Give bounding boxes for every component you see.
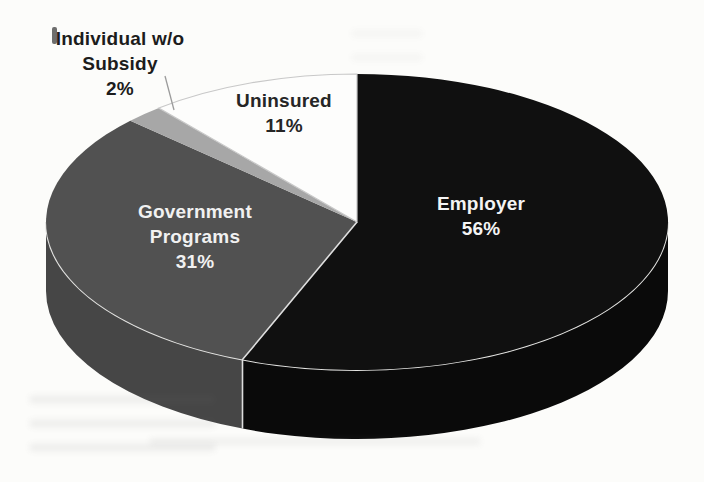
pie-chart-figure: Individual w/o Subsidy 2% Uninsured 11% … <box>0 0 704 482</box>
slice-pct-text: 11% <box>204 113 364 138</box>
slice-label-government-programs: Government Programs 31% <box>120 199 270 274</box>
slice-label-text: Employer <box>401 191 561 216</box>
slice-label-uninsured: Uninsured 11% <box>204 88 364 138</box>
slice-label-employer: Employer 56% <box>401 191 561 241</box>
slice-pct-text: 31% <box>120 249 270 274</box>
slice-label-text: Individual w/o Subsidy <box>40 26 200 76</box>
slice-pct-text: 2% <box>40 76 200 101</box>
slice-label-text: Government Programs <box>120 199 270 249</box>
slice-pct-text: 56% <box>401 216 561 241</box>
scan-stray-mark <box>52 27 57 44</box>
slice-label-text: Uninsured <box>204 88 364 113</box>
slice-label-individual-wo-subsidy: Individual w/o Subsidy 2% <box>40 26 200 101</box>
